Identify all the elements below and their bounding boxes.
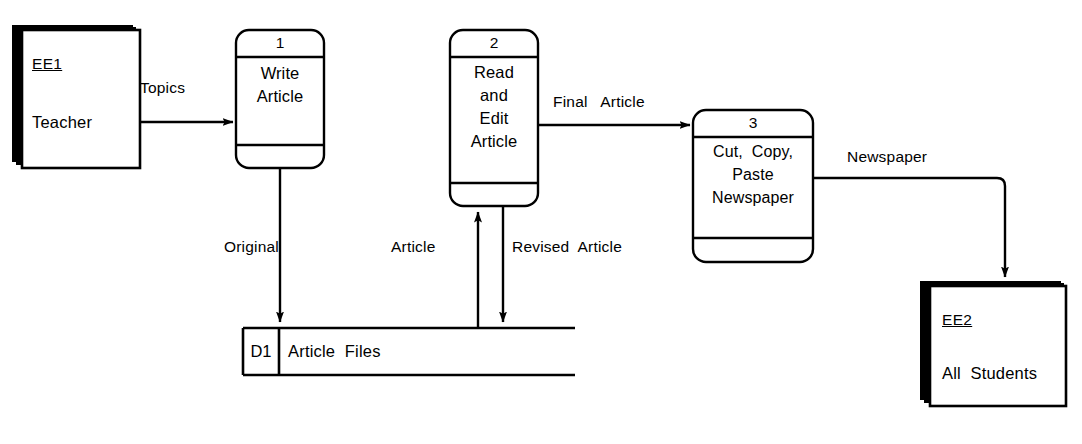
flow-newspaper-arrow bbox=[813, 178, 1005, 277]
external-entity-teacher-shape bbox=[12, 25, 140, 168]
process-2-name-line-4: Article bbox=[450, 132, 538, 151]
process-1-name-line-2: Article bbox=[236, 87, 324, 106]
external-entity-ee2-name: All Students bbox=[942, 364, 1037, 383]
process-2-name-line-3: Edit bbox=[450, 109, 538, 128]
external-entity-ee2-id: EE2 bbox=[942, 311, 972, 329]
process-3-name-line-3: Newspaper bbox=[691, 189, 815, 208]
flow-label-topics: Topics bbox=[140, 79, 185, 97]
external-entity-ee1-id: EE1 bbox=[32, 55, 62, 73]
external-entity-all-students-shape bbox=[920, 281, 1066, 406]
process-1-number: 1 bbox=[236, 34, 324, 52]
flow-label-original: Original bbox=[224, 238, 279, 256]
process-1-name-line-1: Write bbox=[236, 64, 324, 83]
external-entity-ee1-name: Teacher bbox=[32, 113, 92, 132]
process-3-number: 3 bbox=[693, 114, 813, 132]
process-2-number: 2 bbox=[450, 34, 538, 52]
data-store-d1-name: Article Files bbox=[288, 342, 381, 361]
flow-label-newspaper: Newspaper bbox=[847, 148, 927, 166]
process-3-shape bbox=[693, 110, 813, 262]
flow-label-final-article: Final Article bbox=[553, 93, 645, 111]
flow-label-revised-article: Revised Article bbox=[512, 238, 622, 256]
process-2-name-line-2: and bbox=[450, 86, 538, 105]
dfd-vector-layer bbox=[0, 0, 1082, 444]
process-3-name-line-1: Cut, Copy, bbox=[691, 143, 815, 162]
process-3-name-line-2: Paste bbox=[691, 166, 815, 185]
data-store-d1-id: D1 bbox=[243, 342, 279, 361]
process-2-name-line-1: Read bbox=[450, 63, 538, 82]
flow-label-article: Article bbox=[391, 238, 435, 256]
dfd-canvas: EE1 Teacher 1 Write Article 2 Read and E… bbox=[0, 0, 1082, 444]
